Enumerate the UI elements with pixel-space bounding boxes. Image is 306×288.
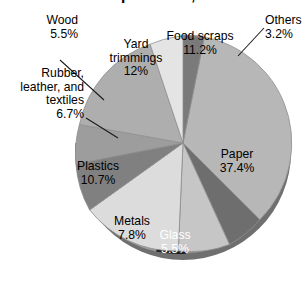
label-plastics-name: Plastics — [62, 160, 134, 174]
label-yard-pct: 12% — [94, 65, 178, 79]
label-rubber-line2: leather, and — [0, 81, 84, 95]
label-metals-name: Metals — [102, 215, 162, 229]
label-others-name: Others — [265, 14, 306, 28]
label-rubber-pct: 6.7% — [0, 108, 84, 122]
label-glass-name: Glass — [146, 229, 204, 243]
label-paper-pct: 37.4% — [201, 162, 273, 176]
label-others-pct: 3.2% — [265, 28, 306, 42]
label-wood: Wood 5.5% — [6, 14, 78, 41]
label-rubber-line3: textiles — [0, 94, 84, 108]
label-paper-name: Paper — [201, 148, 273, 162]
label-rubber-leather-textiles: Rubber, leather, and textiles 6.7% — [0, 67, 84, 121]
label-plastics-pct: 10.7% — [62, 174, 134, 188]
pie-chart-figure: Municipal Waste, 2006 — [0, 0, 306, 288]
label-wood-pct: 5.5% — [6, 28, 78, 42]
label-plastics: Plastics 10.7% — [62, 160, 134, 187]
label-glass: Glass 5.5% — [146, 229, 204, 256]
label-others: Others 3.2% — [265, 14, 306, 41]
label-wood-name: Wood — [6, 14, 78, 28]
label-paper: Paper 37.4% — [201, 148, 273, 175]
label-rubber-line1: Rubber, — [0, 67, 84, 81]
label-food-name: Food scraps — [157, 30, 243, 44]
label-food-pct: 11.2% — [157, 44, 243, 58]
label-food-scraps: Food scraps 11.2% — [157, 30, 243, 57]
label-glass-pct: 5.5% — [146, 243, 204, 257]
